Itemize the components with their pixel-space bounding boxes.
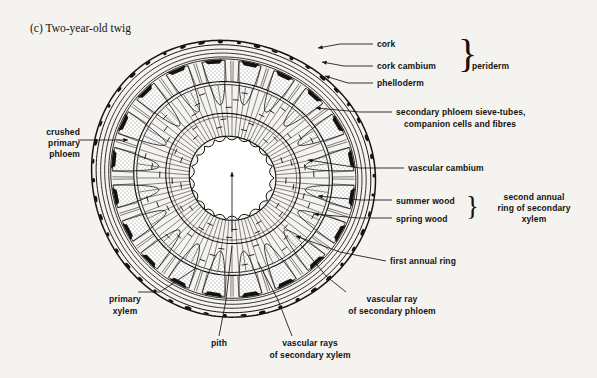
annual-ring-brace: } [466, 193, 479, 220]
label-second-annual-line3: xylem [482, 214, 586, 226]
label-cork-cambium: cork cambium [377, 61, 436, 73]
label-primary-xylem-line1: primary [85, 294, 165, 306]
label-second-annual-line1: second annual [482, 192, 586, 204]
label-summer-wood: summer wood [396, 196, 455, 208]
label-vascular-ray-phloem-line1: vascular ray [336, 294, 448, 306]
label-vascular-rays-xylem-line1: vascular rays [252, 338, 368, 350]
label-pith: pith [196, 338, 242, 350]
label-second-annual-line2: ring of secondary [482, 203, 586, 215]
label-crushed-line2: primary [8, 138, 80, 150]
label-periderm: periderm [472, 61, 509, 73]
label-secondary-phloem-line2: companion cells and fibres [404, 119, 516, 131]
label-vascular-rays-xylem-line2: of secondary xylem [244, 350, 376, 362]
label-primary-xylem-line2: xylem [85, 306, 165, 318]
figure-title: (c) Two-year-old twig [30, 22, 131, 34]
label-vascular-ray-phloem-line2: of secondary phloem [328, 306, 456, 318]
label-phelloderm: phelloderm [377, 78, 424, 90]
label-first-annual-ring: first annual ring [390, 256, 456, 268]
label-cork: cork [377, 39, 395, 51]
figure-canvas: (c) Two-year-old twig cork cork cambium … [0, 0, 597, 378]
label-secondary-phloem-line1: secondary phloem sieve-tubes, [396, 107, 526, 119]
label-crushed-line1: crushed [8, 127, 80, 139]
label-crushed-line3: phloem [8, 149, 80, 161]
twig-cross-section-drawing [0, 0, 597, 378]
label-spring-wood: spring wood [396, 214, 448, 226]
label-vascular-cambium: vascular cambium [408, 163, 484, 175]
